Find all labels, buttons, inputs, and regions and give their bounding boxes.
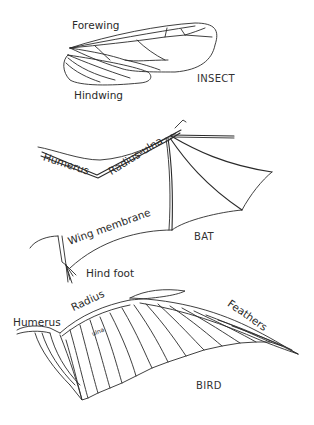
caption-bird: BIRD xyxy=(196,381,222,391)
caption-bat: BAT xyxy=(194,232,214,242)
label-forewing: Forewing xyxy=(72,20,119,31)
label-hindwing: Hindwing xyxy=(74,90,123,101)
label-bird-humerus: Humerus xyxy=(13,317,61,328)
caption-insect: INSECT xyxy=(197,74,235,84)
bird-wing xyxy=(17,290,298,400)
wing-diagram xyxy=(0,0,314,425)
insect-wings xyxy=(64,23,217,85)
label-hind-foot: Hind foot xyxy=(86,268,134,279)
